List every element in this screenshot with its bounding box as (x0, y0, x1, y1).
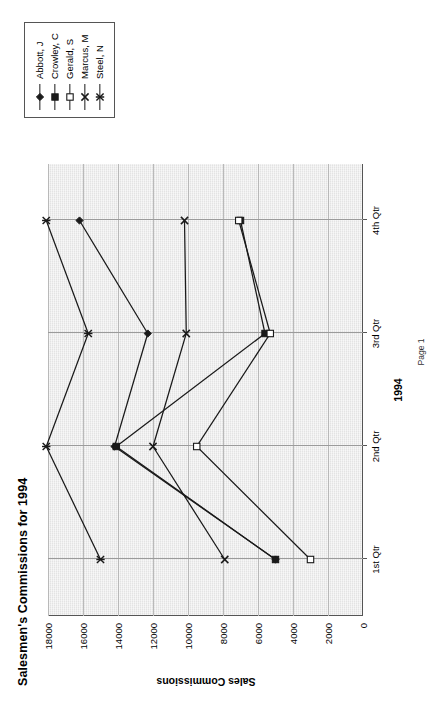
legend-item-label: Steel, N (94, 45, 105, 79)
legend-item-label: Abbott, J (34, 42, 45, 80)
data-point-marker-filled-square (51, 94, 57, 100)
data-point-marker-asterisk (42, 443, 50, 450)
data-point-marker-asterisk (84, 330, 92, 337)
data-point-marker-filled-square (272, 556, 278, 562)
legend-marker-glyph (94, 91, 106, 103)
x-tick-mark (363, 446, 367, 447)
legend-item-label: Marcus, M (79, 35, 90, 79)
y-tick-label: 2000 (323, 623, 334, 644)
data-point-marker-filled-diamond (76, 217, 83, 224)
legend-item-label: Gerald, S (64, 39, 75, 79)
data-point-marker-filled-diamond (36, 93, 43, 100)
x-tick-mark (363, 220, 367, 221)
data-point-marker-cross-x (81, 93, 88, 100)
x-tick-mark (363, 559, 367, 560)
data-point-marker-cross-x (149, 443, 156, 450)
y-axis-title: Sales Commissions (48, 674, 363, 690)
data-point-marker-cross-x (221, 556, 228, 563)
legend-marker-glyph (34, 91, 46, 103)
legend-marker-glyph (79, 91, 91, 103)
data-point-marker-filled-square (113, 443, 119, 449)
data-point-marker-open-square (236, 217, 242, 223)
legend-item-crowley-c[interactable]: Crowley, C (47, 33, 62, 110)
legend-marker-glyph (64, 91, 76, 103)
rotated-page-container: Salesmen's Commissions for 1994 Sales Co… (0, 0, 442, 704)
data-point-marker-asterisk (96, 556, 104, 563)
y-tick-label: 16000 (78, 623, 89, 649)
x-tick-label: 2nd Qtr (370, 431, 381, 463)
y-tick-label: 10000 (183, 623, 194, 649)
legend: Abbott, JCrowley, CGerald, SMarcus, MSte… (24, 22, 115, 118)
data-point-marker-open-square (307, 556, 313, 562)
series-layer (48, 164, 363, 616)
y-tick-label: 8000 (218, 623, 229, 644)
y-tick-label: 14000 (113, 623, 124, 649)
legend-item-gerald-s[interactable]: Gerald, S (62, 33, 77, 110)
legend-item-steel-n[interactable]: Steel, N (92, 33, 107, 110)
data-point-marker-filled-diamond (144, 330, 151, 337)
plot-wrapper: 0200040006000800010000120001400016000180… (48, 164, 363, 616)
x-tick-mark (363, 333, 367, 334)
page-title: Salesmen's Commissions for 1994 (16, 478, 30, 686)
series-crowley-c (113, 217, 279, 562)
series-gerald-s (194, 217, 314, 562)
x-tick-label: 3rd Qtr (370, 319, 381, 349)
legend-marker-filled-diamond-icon (33, 84, 47, 110)
printed-page: Salesmen's Commissions for 1994 Sales Co… (0, 0, 442, 704)
series-steel-n (42, 217, 105, 563)
x-tick-label: 4th Qtr (370, 206, 381, 235)
x-tick-label: 1st Qtr (370, 545, 381, 574)
data-point-marker-open-square (194, 443, 200, 449)
series-marcus-m (149, 217, 228, 563)
legend-marker-open-square-icon (63, 84, 77, 110)
legend-item-abbott-j[interactable]: Abbott, J (32, 33, 47, 110)
legend-marker-glyph (49, 91, 61, 103)
data-point-marker-open-square (267, 330, 273, 336)
y-tick-label: 12000 (148, 623, 159, 649)
legend-marker-filled-square-icon (48, 84, 62, 110)
y-axis-title-label: Sales Commissions (156, 676, 255, 688)
x-axis-title: 1994 (392, 164, 404, 616)
y-tick-label: 18000 (43, 623, 54, 649)
page-footer: Page 1 (416, 0, 426, 704)
data-point-marker-open-square (66, 94, 72, 100)
legend-marker-cross-x-icon (78, 84, 92, 110)
series-abbott-j (76, 217, 279, 563)
legend-item-label: Crowley, C (49, 33, 60, 79)
legend-marker-asterisk-icon (93, 84, 107, 110)
y-tick-label: 4000 (288, 623, 299, 644)
y-tick-label: 0 (358, 623, 369, 628)
data-point-marker-asterisk (42, 217, 50, 224)
data-point-marker-asterisk (95, 93, 103, 100)
legend-item-marcus-m[interactable]: Marcus, M (77, 33, 92, 110)
y-tick-label: 6000 (253, 623, 264, 644)
